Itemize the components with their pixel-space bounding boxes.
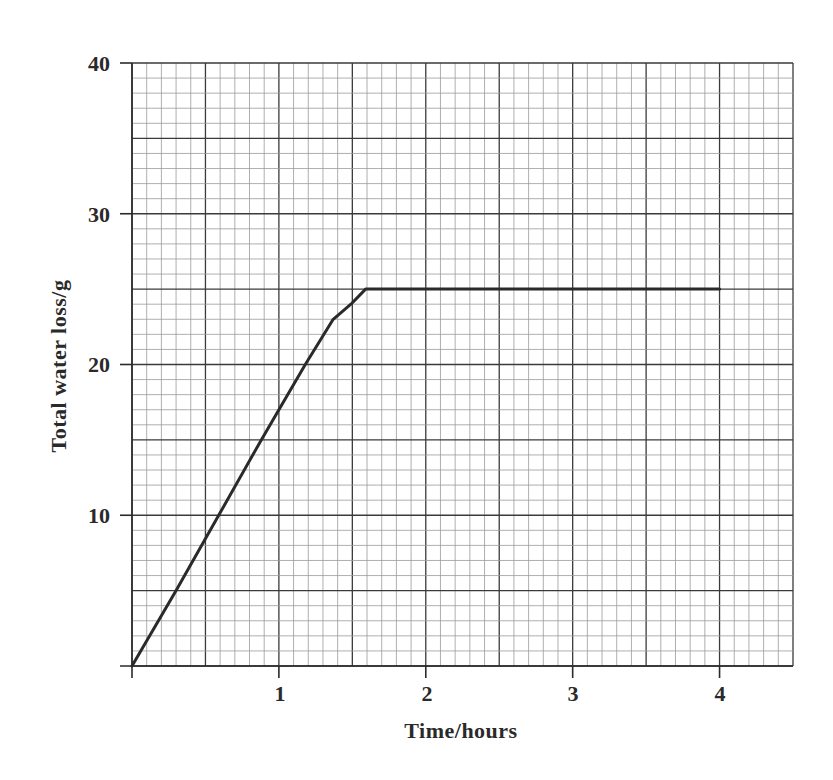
x-tick-2: 2 — [422, 681, 433, 706]
x-tick-3: 3 — [568, 681, 579, 706]
x-tick-1: 1 — [275, 681, 286, 706]
y-tick-40: 40 — [88, 51, 110, 76]
grid — [132, 63, 793, 666]
axes — [120, 63, 793, 678]
x-tick-4: 4 — [715, 681, 726, 706]
y-tick-20: 20 — [88, 352, 110, 377]
y-axis-title: Total water loss/g — [46, 280, 71, 453]
x-axis-title: Time/hours — [404, 718, 517, 743]
y-tick-30: 30 — [88, 202, 110, 227]
chart: 40 30 20 10 1 2 3 4 Time/hours Total wat… — [0, 0, 833, 780]
y-tick-10: 10 — [88, 503, 110, 528]
